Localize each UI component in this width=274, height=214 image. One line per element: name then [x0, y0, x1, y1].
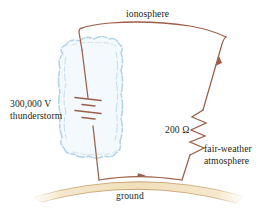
- current-arrow-right: [215, 56, 222, 66]
- ionosphere-wire: [82, 22, 226, 37]
- label-resistance-value: 200 Ω: [165, 124, 189, 136]
- thundercloud: [59, 37, 123, 159]
- label-thunderstorm-source: 300,000 V thunderstorm: [10, 98, 62, 122]
- right-lower-wire: [182, 155, 190, 180]
- label-load-line1: fair-weather: [204, 143, 252, 155]
- label-voltage: 300,000 V: [10, 98, 62, 110]
- label-ground: ground: [116, 190, 144, 202]
- right-upper-wire: [203, 37, 226, 110]
- label-fair-weather-atmosphere: fair-weather atmosphere: [204, 143, 252, 167]
- label-source-name: thunderstorm: [10, 110, 62, 122]
- ground-wire: [99, 177, 182, 181]
- label-ionosphere: ionosphere: [126, 8, 169, 20]
- figure-canvas: ionosphere 300,000 V thunderstorm 200 Ω …: [0, 0, 274, 214]
- label-load-line2: atmosphere: [204, 155, 252, 167]
